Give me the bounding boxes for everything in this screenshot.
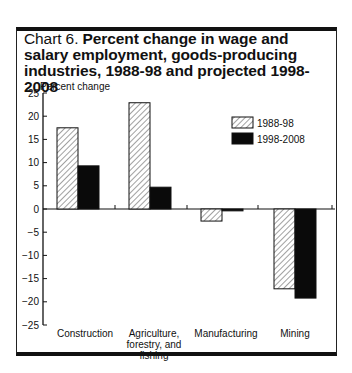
bar-hatched	[274, 209, 295, 289]
y-tick-label: −10	[22, 250, 39, 261]
legend-swatch	[232, 117, 253, 128]
x-category-manufacturing: Manufacturing	[186, 328, 266, 339]
bar-black	[150, 187, 171, 209]
bar-black	[295, 209, 316, 298]
y-tick-label: 10	[28, 157, 40, 168]
legend-label: 1988-98	[257, 118, 294, 129]
bar-black	[222, 209, 243, 211]
legend: 1988-981998-2008	[232, 117, 305, 145]
y-tick-label: 20	[28, 111, 40, 122]
y-tick-label: −15	[22, 273, 39, 284]
legend-label: 1998-2008	[257, 134, 305, 145]
y-tick-label: 0	[33, 204, 39, 215]
bar-black	[78, 166, 99, 209]
legend-swatch	[232, 133, 253, 144]
y-tick-label: 25	[28, 88, 40, 99]
y-tick-label: 15	[28, 134, 40, 145]
bars	[57, 103, 316, 298]
bar-hatched	[129, 103, 150, 209]
y-tick-label: −25	[22, 320, 39, 331]
bar-hatched	[201, 209, 222, 221]
y-tick-label: −20	[22, 296, 39, 307]
x-category-mining: Mining	[270, 328, 320, 339]
bar-hatched	[57, 128, 78, 209]
x-category-construction: Construction	[50, 328, 120, 339]
y-tick-label: −5	[28, 227, 40, 238]
bar-chart-plot: −25−20−15−10−50510152025 1988-981998-200…	[0, 0, 352, 373]
y-tick-label: 5	[33, 180, 39, 191]
x-category-agriculture: Agriculture, forestry, and fishing	[124, 328, 184, 361]
